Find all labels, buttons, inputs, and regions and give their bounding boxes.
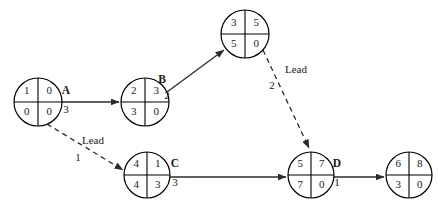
activity-duration: 3 [63,103,69,115]
node-quadrant-bottom-left: 5 [231,37,237,49]
activity-arrow [167,50,224,92]
node-quadrant-top-left: 3 [231,16,237,28]
lead-value: 2 [269,79,275,91]
node-quadrant-bottom-right: 0 [319,178,325,190]
lead-dependency-arrow [47,124,123,170]
node-quadrant-top-left: 1 [24,84,30,96]
node-quadrant-top-left: 6 [395,157,401,169]
network-diagram-svg: 100023303550414357706830 A3B2C3D1Lead1Le… [0,0,438,211]
activity-duration: 3 [172,176,178,188]
lead-value: 1 [75,151,81,163]
lead-label: Lead [285,63,307,75]
node-quadrant-bottom-left: 4 [133,178,139,190]
activity-node: 5770 [288,152,334,198]
node-quadrant-top-left: 2 [131,84,137,96]
node-quadrant-top-right: 1 [155,157,161,169]
activity-duration: 2 [164,89,170,101]
node-quadrant-bottom-right: 0 [254,37,260,49]
node-quadrant-top-right: 8 [417,157,423,169]
activity-label: B [158,73,166,85]
activity-duration: 1 [334,176,340,188]
activity-node: 3550 [221,10,269,58]
node-quadrant-bottom-right: 0 [154,105,160,117]
node-quadrant-bottom-left: 0 [24,105,30,117]
node-quadrant-top-right: 0 [47,84,53,96]
node-quadrant-bottom-left: 3 [395,178,401,190]
node-quadrant-top-left: 4 [133,157,139,169]
activity-node: 2330 [121,78,169,126]
activity-label: D [333,157,341,169]
lead-label: Lead [82,134,104,146]
nodes-layer: 100023303550414357706830 [14,10,432,198]
node-quadrant-bottom-left: 3 [131,105,137,117]
activity-label: C [171,157,179,169]
activity-label: A [62,84,71,96]
node-quadrant-top-right: 5 [254,16,260,28]
node-quadrant-top-right: 3 [154,84,160,96]
node-quadrant-bottom-right: 0 [417,178,423,190]
activity-node: 6830 [386,152,432,198]
node-quadrant-top-right: 7 [319,157,325,169]
node-quadrant-bottom-left: 7 [297,178,303,190]
node-quadrant-bottom-right: 3 [155,178,161,190]
activity-node: 1000 [14,78,62,126]
activity-node: 4143 [124,152,170,198]
node-quadrant-top-left: 5 [297,157,303,169]
network-diagram-canvas: 100023303550414357706830 A3B2C3D1Lead1Le… [0,0,438,211]
node-quadrant-bottom-right: 0 [47,105,53,117]
